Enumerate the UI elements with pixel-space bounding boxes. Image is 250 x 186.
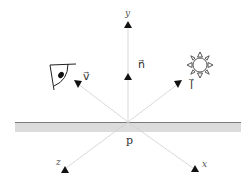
view-vector-label: v⃗ (83, 71, 90, 82)
light-arrowhead (174, 80, 182, 88)
z-axis-label: z (56, 158, 61, 167)
point-label: p (126, 135, 133, 146)
normal-arrowhead (124, 73, 132, 80)
eye-icon (50, 64, 76, 90)
sun-icon (187, 52, 213, 78)
reflection-diagram: y n⃗ v⃗ l⃗ p z x (0, 0, 250, 186)
light-ray (128, 84, 178, 122)
view-ray (78, 84, 128, 122)
surface-plane (15, 122, 241, 132)
diagram-canvas (0, 0, 250, 186)
x-axis-label: x (202, 160, 207, 169)
view-arrowhead (74, 80, 82, 88)
normal-vector-label: n⃗ (138, 59, 145, 70)
y-axis-label: y (125, 9, 130, 18)
x-axis-arrowhead (191, 165, 199, 172)
light-vector-label: l⃗ (190, 80, 193, 91)
arrowheads (61, 21, 199, 173)
y-axis-arrowhead (124, 21, 132, 28)
